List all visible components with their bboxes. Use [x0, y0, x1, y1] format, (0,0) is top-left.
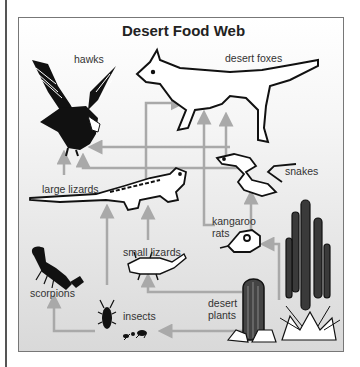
label-desert-plants-line1: desert: [208, 298, 237, 309]
hawk-illustration: [32, 60, 116, 156]
label-insects: insects: [123, 311, 156, 322]
label-desert-foxes: desert foxes: [225, 53, 282, 64]
label-desert-plants-line2: plants: [208, 310, 236, 321]
saguaro-cactus-illustration: [286, 200, 330, 310]
arrow-insects-to-scorpions: [54, 301, 95, 331]
label-scorpions: scorpions: [30, 288, 75, 299]
scorpion-illustration: [32, 246, 84, 290]
label-hawks: hawks: [74, 54, 104, 65]
label-kangaroo-rats-line2: rats: [212, 228, 230, 239]
ant-illustration: [123, 330, 147, 340]
label-small-lizards: small lizards: [123, 247, 181, 258]
arrow-plants-to-kangaroo-rats: [267, 244, 279, 300]
arrow-kangaroo-rats-to-foxes: [204, 117, 215, 225]
beetle-illustration: [98, 300, 116, 329]
arrow-plants-to-small-lizards: [148, 280, 242, 292]
shrub-illustration: [280, 306, 340, 340]
diagram-title: Desert Food Web: [122, 22, 245, 39]
label-large-lizards: large lizards: [42, 184, 99, 195]
label-kangaroo-rats-line1: kangaroo: [212, 216, 256, 227]
label-snakes: snakes: [285, 166, 318, 177]
